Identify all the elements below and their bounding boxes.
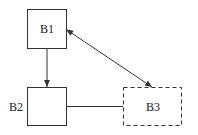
node-b2-label: B2 (9, 101, 23, 113)
node-b1-label: B1 (40, 23, 54, 35)
node-b3-label: B3 (146, 101, 160, 113)
edge-b1-b3-bidirectional-arrow (67, 30, 152, 87)
node-b2-box (28, 88, 67, 126)
diagram-canvas (0, 0, 198, 135)
